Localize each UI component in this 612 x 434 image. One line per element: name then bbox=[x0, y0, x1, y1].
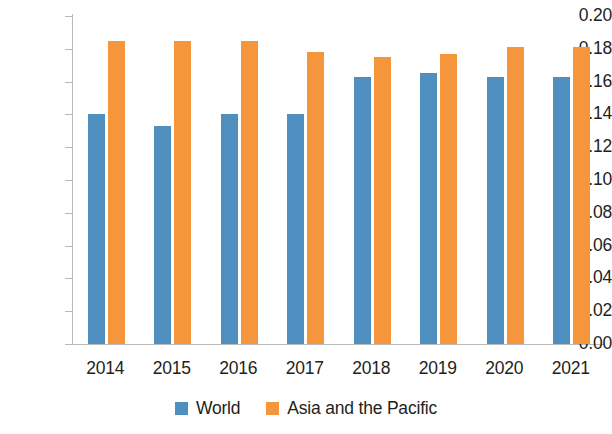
plot-area bbox=[72, 16, 604, 344]
bar-asia-and-the-pacific-2015[interactable] bbox=[174, 41, 191, 344]
bar-world-2016[interactable] bbox=[221, 114, 238, 344]
bar-world-2018[interactable] bbox=[354, 77, 371, 344]
x-axis-label-2020: 2020 bbox=[472, 360, 536, 378]
x-axis-label-2015: 2015 bbox=[140, 360, 204, 378]
bar-group bbox=[553, 16, 590, 344]
bar-asia-and-the-pacific-2021[interactable] bbox=[573, 47, 590, 344]
x-axis-line bbox=[72, 344, 604, 345]
bar-chart: 0.200.180.160.140.120.100.080.060.040.02… bbox=[0, 0, 612, 434]
legend-label: World bbox=[196, 400, 240, 418]
y-axis-tick bbox=[65, 114, 72, 115]
y-axis-tick bbox=[65, 278, 72, 279]
x-axis-label-2019: 2019 bbox=[406, 360, 470, 378]
bar-world-2019[interactable] bbox=[420, 73, 437, 344]
bar-group bbox=[287, 16, 324, 344]
bar-group bbox=[221, 16, 258, 344]
bar-asia-and-the-pacific-2014[interactable] bbox=[108, 41, 125, 344]
bar-asia-and-the-pacific-2020[interactable] bbox=[507, 47, 524, 344]
y-axis-tick bbox=[65, 246, 72, 247]
bar-group bbox=[354, 16, 391, 344]
y-axis-tick bbox=[65, 213, 72, 214]
bar-world-2021[interactable] bbox=[553, 77, 570, 344]
bar-world-2020[interactable] bbox=[487, 77, 504, 344]
y-axis-tick bbox=[65, 344, 72, 345]
bar-group bbox=[88, 16, 125, 344]
bar-world-2017[interactable] bbox=[287, 114, 304, 344]
y-axis-tick bbox=[65, 311, 72, 312]
x-axis-label-2014: 2014 bbox=[73, 360, 137, 378]
bar-world-2014[interactable] bbox=[88, 114, 105, 344]
y-axis-tick bbox=[65, 180, 72, 181]
legend-swatch-icon bbox=[175, 402, 188, 415]
y-axis-tick bbox=[65, 49, 72, 50]
bar-asia-and-the-pacific-2018[interactable] bbox=[374, 57, 391, 344]
bar-group bbox=[420, 16, 457, 344]
x-axis-label-2016: 2016 bbox=[206, 360, 270, 378]
y-axis-tick bbox=[65, 82, 72, 83]
bar-world-2015[interactable] bbox=[154, 126, 171, 344]
legend-item-asia-and-the-pacific[interactable]: Asia and the Pacific bbox=[266, 400, 437, 418]
x-axis-label-2017: 2017 bbox=[273, 360, 337, 378]
x-axis-label-2018: 2018 bbox=[339, 360, 403, 378]
y-axis-tick bbox=[65, 16, 72, 17]
chart-legend: WorldAsia and the Pacific bbox=[0, 400, 612, 418]
y-axis-tick bbox=[65, 147, 72, 148]
bar-group bbox=[487, 16, 524, 344]
bar-group bbox=[154, 16, 191, 344]
legend-swatch-icon bbox=[266, 402, 279, 415]
bar-asia-and-the-pacific-2017[interactable] bbox=[307, 52, 324, 344]
legend-label: Asia and the Pacific bbox=[287, 400, 437, 418]
bar-asia-and-the-pacific-2016[interactable] bbox=[241, 41, 258, 344]
x-axis-label-2021: 2021 bbox=[539, 360, 603, 378]
bar-asia-and-the-pacific-2019[interactable] bbox=[440, 54, 457, 344]
legend-item-world[interactable]: World bbox=[175, 400, 240, 418]
